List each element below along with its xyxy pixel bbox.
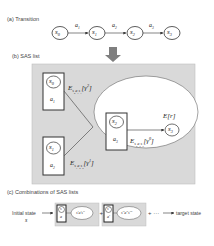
state-label-s1: s1: [92, 29, 97, 36]
reward-label: E[r]: [163, 113, 175, 120]
inner-state-s3: s3: [168, 126, 173, 133]
action-label-a2: a2: [112, 22, 117, 28]
initial-state-label: Initial state: [12, 210, 36, 216]
combo-state-1: s: [60, 207, 62, 211]
state-label-s0: s0: [55, 29, 60, 36]
action-label-a1: a1: [75, 22, 80, 28]
combo-state-2: s': [107, 207, 109, 211]
ellipsis: + ···: [148, 210, 159, 216]
box-action-a3: a3: [113, 136, 118, 142]
edge-label-inner: Es2a3s3[γ0]: [130, 138, 154, 147]
initial-state-symbol: s: [25, 217, 27, 223]
plus-sign: +: [100, 210, 104, 216]
target-state-label: target state: [176, 210, 201, 216]
combo-action-1: a: [60, 215, 62, 219]
box-state-s0: s0: [49, 78, 54, 85]
combo-action-2: a': [107, 215, 110, 219]
edge-label-top: Es0a1s1[γ2]: [68, 85, 92, 94]
down-arrow-icon: [105, 47, 121, 62]
combo-ellipse-text-2: s''a''s''': [121, 211, 132, 215]
combo-ellipse-text-1: s'a's'': [76, 211, 85, 215]
edge-label-bottom: Es1a2s2[γ1]: [70, 160, 94, 169]
action-label-a3: a3: [149, 22, 154, 28]
box-state-s1: s1: [49, 144, 54, 151]
state-label-s2: s2: [130, 29, 135, 36]
state-label-s3: s3: [167, 29, 172, 36]
box-state-s2: s2: [112, 118, 117, 125]
box-action-a2: a2: [50, 162, 55, 168]
box-action-a1: a1: [50, 96, 55, 102]
